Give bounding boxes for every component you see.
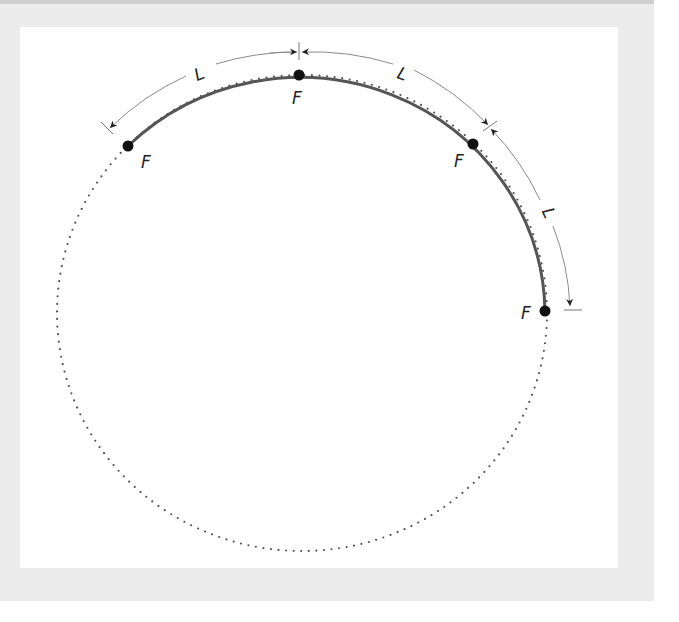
force-point-top (294, 70, 305, 81)
tick-left (101, 122, 113, 134)
spacing-label-2: L (395, 63, 411, 85)
force-circle-diagram: F F F F L L L (0, 0, 679, 622)
force-label-right-upper: F (454, 151, 464, 171)
dimension-arc-3b (553, 226, 570, 306)
dimension-arc-3a (491, 129, 540, 200)
force-point-right (540, 306, 551, 317)
force-point-right-upper (468, 139, 479, 150)
dimension-arc-1b (110, 76, 186, 128)
dimension-arc-2a (302, 52, 393, 64)
force-point-left (123, 141, 134, 152)
force-label-right: F (521, 303, 531, 323)
loaded-arc (128, 77, 545, 311)
force-points (123, 70, 551, 317)
dimension-arc-2b (414, 70, 488, 125)
dimension-arc-1a (216, 52, 295, 64)
force-label-left: F (141, 152, 151, 172)
spacing-label-3: L (538, 204, 560, 221)
force-label-top: F (292, 88, 302, 108)
spacing-label-1: L (191, 63, 207, 85)
